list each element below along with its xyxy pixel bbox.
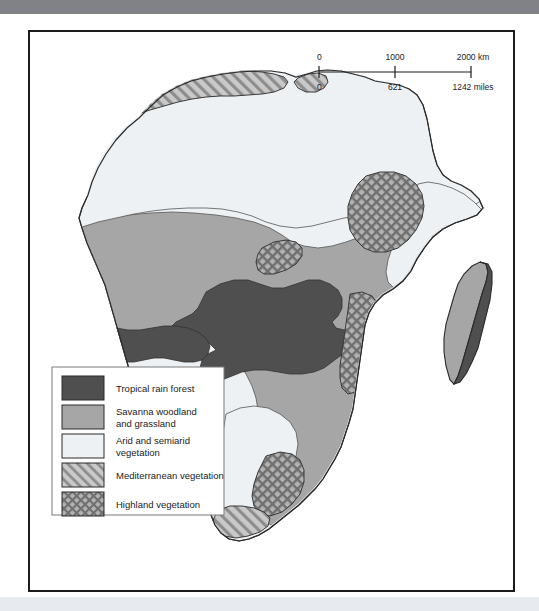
legend-swatch-mediterranean: [62, 463, 104, 487]
scale-km-tick-0: 0: [317, 52, 322, 62]
rainforest-guinea-coast-region: [68, 326, 210, 362]
scale-miles-tick-621: 621: [388, 82, 402, 92]
legend-label-savanna-woodland-line2: and grassland: [116, 418, 176, 429]
legend-label-arid-semiarid-line1: Arid and semiarid: [116, 435, 190, 446]
legend-swatch-savanna-woodland: [62, 405, 104, 429]
africa-vegetation-map: 0 1000 2000 km 0 621 1242 miles Tropical…: [30, 32, 513, 590]
scale-km-tick-1000: 1000: [386, 52, 405, 62]
legend-label-tropical-rain-forest: Tropical rain forest: [116, 383, 195, 394]
legend-label-arid-semiarid-line2: vegetation: [116, 447, 160, 458]
scale-km-tick-2000: 2000 km: [457, 52, 490, 62]
bottom-decorative-strip: [0, 597, 539, 611]
scale-miles-tick-1242: 1242 miles: [452, 82, 493, 92]
legend-swatch-highland: [62, 492, 104, 516]
madagascar-island: [444, 262, 492, 384]
legend-label-savanna-woodland-line1: Savanna woodland: [116, 406, 197, 417]
legend-swatch-arid-semiarid: [62, 434, 104, 458]
top-decorative-bar: [0, 0, 539, 14]
legend-label-mediterranean: Mediterranean vegetation: [116, 470, 224, 481]
highland-kenya-region: [392, 292, 418, 330]
legend-swatch-tropical-rain-forest: [62, 376, 104, 400]
legend-label-highland: Highland vegetation: [116, 499, 200, 510]
scale-miles-tick-0: 0: [317, 82, 322, 92]
map-figure-frame: 0 1000 2000 km 0 621 1242 miles Tropical…: [28, 30, 515, 592]
map-legend: Tropical rain forest Savanna woodland an…: [52, 367, 224, 516]
